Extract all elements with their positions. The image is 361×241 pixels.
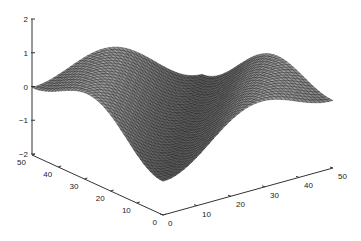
z-tick-label: 2 [24, 15, 29, 24]
y-axis-line [32, 155, 163, 215]
x-tick-label: 30 [270, 191, 279, 200]
z-tick-label: −1 [19, 116, 29, 125]
x-tick-label: 0 [168, 219, 173, 228]
x-tick [330, 167, 333, 168]
z-tick-label: 1 [24, 49, 29, 58]
x-tick-label: 50 [338, 172, 347, 181]
y-tick [163, 214, 166, 215]
x-tick [296, 176, 299, 177]
x-tick-label: 40 [304, 181, 313, 190]
y-tick-label: 0 [153, 218, 158, 227]
y-tick-label: 50 [17, 158, 26, 167]
x-tick-label: 10 [202, 210, 211, 219]
y-tick-label: 30 [69, 182, 78, 191]
x-tick [194, 205, 197, 206]
x-tick [228, 195, 231, 196]
x-tick [262, 186, 265, 187]
y-tick [58, 166, 61, 167]
y-tick-label: 10 [122, 206, 131, 215]
y-tick-label: 40 [43, 170, 52, 179]
y-tick-label: 20 [96, 194, 105, 203]
z-tick-label: 0 [24, 83, 29, 92]
mesh-surface [32, 47, 333, 181]
y-tick [111, 190, 114, 191]
x-axis-line [163, 168, 333, 215]
x-tick [160, 214, 163, 215]
surface-plot: −2−10120102030405001020304050 [0, 0, 361, 241]
x-tick-label: 20 [236, 200, 245, 209]
y-tick [137, 202, 140, 203]
y-tick [84, 178, 87, 179]
